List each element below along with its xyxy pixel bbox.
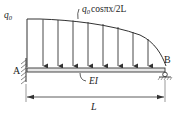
left-load-intensity-label: q0 — [4, 10, 13, 21]
load-label-leader — [78, 9, 79, 19]
beam — [27, 68, 165, 72]
load-arrows — [43, 20, 148, 67]
load-expression-label: q0cosπx/2L — [82, 4, 127, 15]
support-a-label: A — [13, 65, 21, 76]
ei-leader — [80, 73, 86, 81]
stiffness-label: EI — [88, 76, 99, 86]
fixed-support-a — [21, 58, 26, 84]
span-label: L — [90, 101, 97, 112]
load-curve — [27, 19, 166, 66]
beam-diagram: q0cosπx/2L q0 A B EI L — [0, 0, 179, 118]
support-b-label: B — [164, 54, 171, 65]
pin-support-b — [158, 72, 172, 80]
distributed-load — [27, 9, 166, 67]
